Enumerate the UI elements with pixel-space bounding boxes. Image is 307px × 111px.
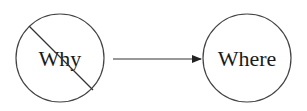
diagram-canvas: Why Where	[0, 0, 307, 111]
node-where: Where	[203, 14, 291, 102]
node-why-label: Why	[39, 46, 82, 71]
node-where-label: Where	[218, 46, 277, 71]
node-why: Why	[16, 14, 104, 102]
